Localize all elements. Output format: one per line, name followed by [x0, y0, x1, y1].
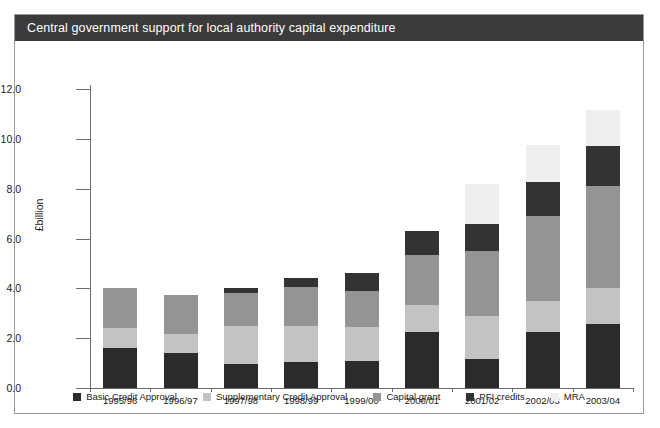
y-tick-label: 6.0: [0, 239, 21, 251]
bar-segment[interactable]: [224, 326, 258, 365]
bar-segment[interactable]: [526, 301, 560, 332]
bar-segment[interactable]: [465, 359, 499, 388]
bar-group[interactable]: [405, 231, 439, 388]
bar-segment[interactable]: [345, 273, 379, 290]
chart-figure: Central government support for local aut…: [14, 14, 644, 414]
legend-item[interactable]: MRA: [551, 391, 585, 402]
legend-swatch-icon: [551, 393, 559, 401]
legend-label: PFI credits: [479, 391, 524, 402]
bar-segment[interactable]: [284, 326, 318, 362]
y-tick-label: 8.0: [0, 189, 21, 201]
bar-segment[interactable]: [405, 332, 439, 388]
bar-segment[interactable]: [405, 305, 439, 332]
legend-item[interactable]: Capital grant: [373, 391, 440, 402]
bar-segment[interactable]: [164, 334, 198, 353]
bar-segment[interactable]: [224, 293, 258, 325]
bar-segment[interactable]: [284, 287, 318, 326]
bar-segment[interactable]: [405, 231, 439, 255]
chart-title-bar: Central government support for local aut…: [15, 15, 643, 41]
bar-segment[interactable]: [103, 288, 137, 328]
legend-label: Capital grant: [386, 391, 440, 402]
y-tick: [76, 338, 90, 339]
bar-series-container: [90, 41, 633, 389]
bar-group[interactable]: [586, 110, 620, 388]
plot-area: £billion 0.02.04.06.08.010.012.0 1995/96…: [15, 41, 643, 415]
y-tick-label: 2.0: [0, 338, 21, 350]
bar-segment[interactable]: [103, 348, 137, 388]
chart-legend: Basic Credit ApprovalSupplementary Credi…: [15, 389, 643, 415]
legend-label: Basic Credit Approval: [86, 391, 177, 402]
y-axis-title: £billion: [33, 185, 45, 245]
bar-segment[interactable]: [164, 295, 198, 335]
legend-item[interactable]: Basic Credit Approval: [73, 391, 177, 402]
legend-label: Supplementary Credit Approval: [216, 391, 348, 402]
bar-segment[interactable]: [586, 110, 620, 146]
bar-segment[interactable]: [586, 324, 620, 388]
bar-segment[interactable]: [526, 182, 560, 216]
bar-segment[interactable]: [465, 316, 499, 360]
bar-group[interactable]: [345, 273, 379, 388]
bar-segment[interactable]: [284, 278, 318, 287]
bar-segment[interactable]: [224, 288, 258, 293]
bar-group[interactable]: [224, 288, 258, 388]
bar-segment[interactable]: [345, 327, 379, 361]
bar-group[interactable]: [284, 278, 318, 388]
bar-segment[interactable]: [586, 288, 620, 324]
y-tick: [76, 89, 90, 90]
y-tick-label: 10.0: [0, 139, 21, 151]
bar-group[interactable]: [164, 295, 198, 388]
bar-segment[interactable]: [345, 361, 379, 388]
legend-swatch-icon: [203, 393, 211, 401]
legend-swatch-icon: [373, 393, 381, 401]
bar-segment[interactable]: [284, 362, 318, 388]
y-tick-label: 12.0: [0, 89, 21, 101]
bar-segment[interactable]: [465, 251, 499, 316]
y-tick: [76, 239, 90, 240]
y-tick-label: 4.0: [0, 288, 21, 300]
legend-label: MRA: [564, 391, 585, 402]
y-tick: [76, 189, 90, 190]
bar-group[interactable]: [526, 145, 560, 388]
bar-segment[interactable]: [164, 353, 198, 388]
bar-group[interactable]: [465, 184, 499, 388]
legend-swatch-icon: [73, 393, 81, 401]
bar-segment[interactable]: [526, 145, 560, 182]
bar-segment[interactable]: [586, 146, 620, 186]
bar-segment[interactable]: [405, 255, 439, 305]
legend-item[interactable]: PFI credits: [466, 391, 524, 402]
bar-segment[interactable]: [526, 332, 560, 388]
y-tick: [76, 139, 90, 140]
bar-segment[interactable]: [586, 186, 620, 288]
bar-segment[interactable]: [465, 184, 499, 224]
bar-segment[interactable]: [224, 364, 258, 388]
bar-segment[interactable]: [103, 328, 137, 348]
legend-swatch-icon: [466, 393, 474, 401]
legend-item[interactable]: Supplementary Credit Approval: [203, 391, 348, 402]
bar-segment[interactable]: [465, 224, 499, 251]
y-tick: [76, 288, 90, 289]
bar-segment[interactable]: [345, 291, 379, 327]
bar-group[interactable]: [103, 288, 137, 388]
bar-segment[interactable]: [526, 216, 560, 301]
page-title: Central government support for local aut…: [27, 21, 396, 35]
